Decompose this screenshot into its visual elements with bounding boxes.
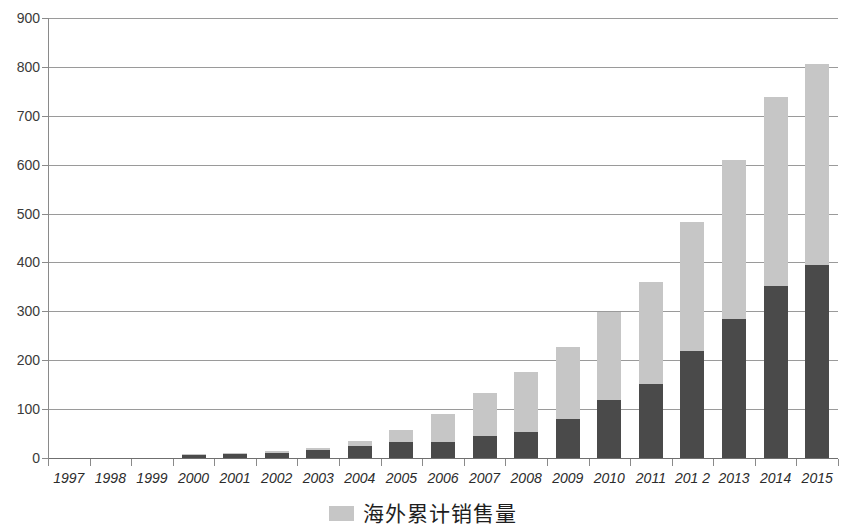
table-row[interactable] <box>639 18 663 458</box>
bar-segment[interactable] <box>514 372 538 432</box>
y-axis-tick-label: 500 <box>0 207 40 221</box>
table-row[interactable] <box>556 18 580 458</box>
bar-segment[interactable] <box>431 442 455 458</box>
y-axis-tickmark <box>42 262 49 263</box>
y-axis-tick-label: 200 <box>0 353 40 367</box>
x-axis-tick-label: 2009 <box>547 470 589 486</box>
y-axis-tickmark <box>42 360 49 361</box>
bar-segment[interactable] <box>805 64 829 265</box>
bar-segment[interactable] <box>764 286 788 458</box>
table-row[interactable] <box>597 18 621 458</box>
table-row[interactable] <box>514 18 538 458</box>
x-axis-tick-label: 2013 <box>713 470 755 486</box>
table-row[interactable] <box>764 18 788 458</box>
table-row[interactable] <box>98 18 122 458</box>
y-axis-tick-label: 300 <box>0 304 40 318</box>
table-row[interactable] <box>389 18 413 458</box>
bar-segment[interactable] <box>639 384 663 458</box>
x-axis-tickmark <box>589 459 590 466</box>
table-row[interactable] <box>722 18 746 458</box>
table-row[interactable] <box>223 18 247 458</box>
x-axis-tick-label: 2007 <box>464 470 506 486</box>
bar-segment[interactable] <box>722 319 746 458</box>
bar-segment[interactable] <box>473 393 497 437</box>
bar-segment[interactable] <box>306 450 330 458</box>
y-axis-tick-label: 800 <box>0 60 40 74</box>
x-axis-tick-label: 2015 <box>796 470 838 486</box>
bar-segment[interactable] <box>597 312 621 400</box>
x-axis-tickmark <box>214 459 215 466</box>
x-axis-tick-label: 2001 <box>214 470 256 486</box>
bar-segment[interactable] <box>639 282 663 385</box>
bar-segment[interactable] <box>348 441 372 446</box>
bar-segment[interactable] <box>556 347 580 420</box>
x-axis-tickmark <box>381 459 382 466</box>
bar-segment[interactable] <box>348 446 372 458</box>
x-axis-tick-label: 1999 <box>131 470 173 486</box>
y-axis-tick-label: 600 <box>0 158 40 172</box>
y-axis-tickmark <box>42 311 49 312</box>
y-axis-tickmark <box>42 409 49 410</box>
table-row[interactable] <box>348 18 372 458</box>
table-row[interactable] <box>473 18 497 458</box>
y-axis-tickmark <box>42 165 49 166</box>
table-row[interactable] <box>140 18 164 458</box>
y-axis-labels: 9008007006005004003002001000 <box>0 18 40 459</box>
y-axis-tick-label: 900 <box>0 11 40 25</box>
x-axis-line <box>48 458 838 459</box>
table-row[interactable] <box>805 18 829 458</box>
bar-segment[interactable] <box>556 419 580 458</box>
cropped-title-sliver: ····· <box>60 0 310 5</box>
legend-swatch-icon <box>329 506 354 521</box>
x-axis-tickmark <box>755 459 756 466</box>
table-row[interactable] <box>431 18 455 458</box>
bar-segment[interactable] <box>265 451 289 452</box>
x-axis-tickmark <box>547 459 548 466</box>
x-axis-tick-label: 2005 <box>381 470 423 486</box>
x-axis-tickmark <box>838 459 839 466</box>
bar-segment[interactable] <box>597 400 621 458</box>
x-axis-tick-label: 2008 <box>505 470 547 486</box>
bar-segment[interactable] <box>223 453 247 454</box>
y-axis-tick-label: 400 <box>0 255 40 269</box>
bar-segment[interactable] <box>473 436 497 458</box>
table-row[interactable] <box>57 18 81 458</box>
x-axis-tickmark <box>48 459 49 466</box>
bar-segment[interactable] <box>722 160 746 319</box>
x-axis-tick-label: 2003 <box>297 470 339 486</box>
bar-segment[interactable] <box>805 265 829 458</box>
x-axis-tickmark <box>131 459 132 466</box>
x-axis-tick-label: 2010 <box>589 470 631 486</box>
table-row[interactable] <box>182 18 206 458</box>
x-axis-tick-label: 2004 <box>339 470 381 486</box>
bar-segment[interactable] <box>764 97 788 286</box>
x-axis-tick-label: 2006 <box>422 470 464 486</box>
x-axis-tick-label: 2014 <box>755 470 797 486</box>
table-row[interactable] <box>265 18 289 458</box>
x-axis-tick-label: 1998 <box>90 470 132 486</box>
bar-segment[interactable] <box>680 222 704 351</box>
x-axis-tick-label: 1997 <box>48 470 90 486</box>
bar-segment[interactable] <box>306 448 330 450</box>
x-axis-tickmark <box>505 459 506 466</box>
x-axis-tickmark <box>464 459 465 466</box>
x-axis-tickmark <box>90 459 91 466</box>
legend-label: 海外累计销售量 <box>363 502 517 526</box>
bar-segment[interactable] <box>182 454 206 455</box>
x-axis-tick-label: 2002 <box>256 470 298 486</box>
x-axis-tickmark <box>796 459 797 466</box>
bar-segment[interactable] <box>680 351 704 458</box>
x-axis-tickmark <box>256 459 257 466</box>
table-row[interactable] <box>306 18 330 458</box>
bar-segment[interactable] <box>389 430 413 442</box>
bar-segment[interactable] <box>431 414 455 441</box>
bar-segment[interactable] <box>514 432 538 458</box>
bar-segment[interactable] <box>389 442 413 458</box>
table-row[interactable] <box>680 18 704 458</box>
x-axis-tickmark <box>339 459 340 466</box>
x-axis-tickmark <box>713 459 714 466</box>
y-axis-tickmark <box>42 214 49 215</box>
x-axis-tickmark <box>672 459 673 466</box>
x-axis-tick-label: 2011 <box>630 470 672 486</box>
y-axis-tick-label: 0 <box>0 451 40 465</box>
